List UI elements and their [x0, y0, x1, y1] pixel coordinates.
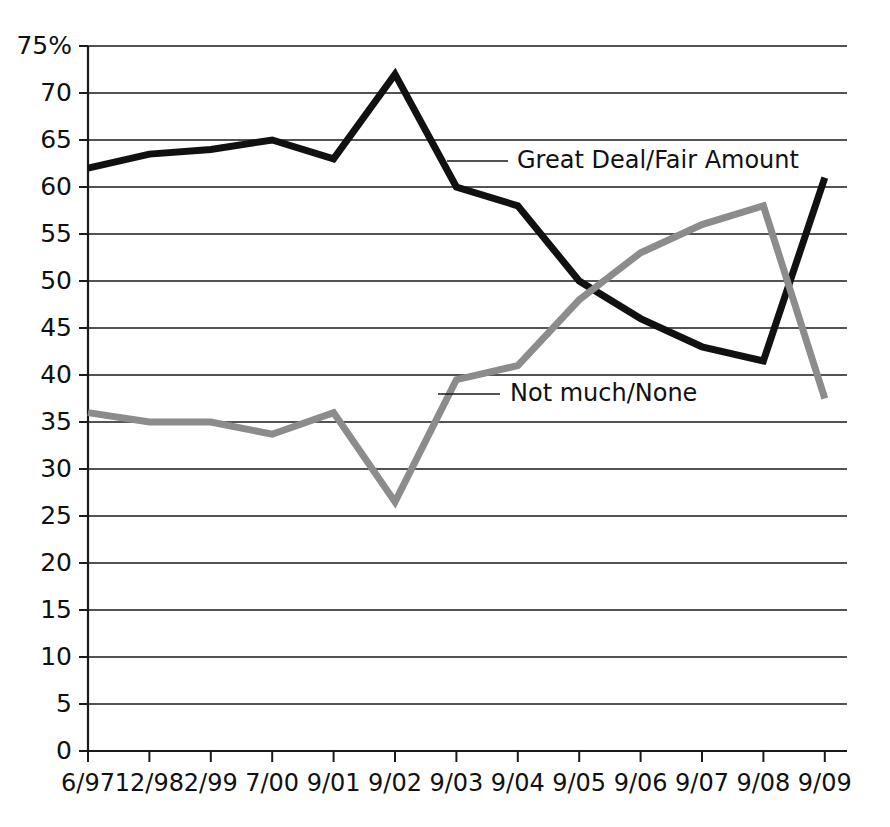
- x-axis-label-9/03: 9/03: [429, 769, 483, 797]
- line-chart: 75%7065605550454035302520151050 6/9712/9…: [0, 0, 890, 827]
- x-axis-label-9/07: 9/07: [675, 769, 729, 797]
- y-axis-label-35: 35: [40, 407, 72, 436]
- y-axis-label-45: 45: [40, 313, 72, 342]
- y-axis-labels: 75%7065605550454035302520151050: [16, 31, 72, 765]
- x-axis-label-9/04: 9/04: [491, 769, 545, 797]
- y-axis-tickmarks: [79, 46, 88, 751]
- y-axis-label-20: 20: [40, 548, 72, 577]
- y-axis-label-55: 55: [40, 219, 72, 248]
- y-axis-label-15: 15: [40, 595, 72, 624]
- chart-container: 75%7065605550454035302520151050 6/9712/9…: [0, 0, 890, 827]
- x-axis-label-6/97: 6/97: [61, 769, 115, 797]
- annotation-label-great-deal-fair-amount: Great Deal/Fair Amount: [517, 146, 799, 174]
- annotation-label-not-much-none: Not much/None: [510, 379, 697, 407]
- x-axis-label-9/08: 9/08: [736, 769, 790, 797]
- y-axis-label-25: 25: [40, 501, 72, 530]
- y-axis-label-5: 5: [56, 689, 72, 718]
- x-axis-label-9/06: 9/06: [614, 769, 668, 797]
- data-series: [88, 74, 825, 502]
- series-annotations: Great Deal/Fair AmountNot much/None: [438, 146, 799, 407]
- y-axis-label-70: 70: [40, 78, 72, 107]
- y-axis-label-0: 0: [56, 736, 72, 765]
- x-axis-label-9/02: 9/02: [368, 769, 422, 797]
- series-line-not-much-none: [88, 206, 825, 502]
- y-axis-label-40: 40: [40, 360, 72, 389]
- x-axis-labels: 6/9712/982/997/009/019/029/039/049/059/0…: [61, 769, 852, 797]
- y-axis-label-65: 65: [40, 125, 72, 154]
- y-axis-label-50: 50: [40, 266, 72, 295]
- x-axis-label-9/01: 9/01: [307, 769, 361, 797]
- x-axis-label-12/98: 12/98: [115, 769, 184, 797]
- x-axis-label-9/05: 9/05: [552, 769, 606, 797]
- y-axis-label-60: 60: [40, 172, 72, 201]
- y-axis-label-30: 30: [40, 454, 72, 483]
- x-axis-tickmarks: [88, 751, 825, 762]
- y-axis-label-75%: 75%: [16, 31, 72, 60]
- x-axis-label-9/09: 9/09: [798, 769, 852, 797]
- x-axis-label-7/00: 7/00: [245, 769, 299, 797]
- x-axis-label-2/99: 2/99: [184, 769, 238, 797]
- y-axis-label-10: 10: [40, 642, 72, 671]
